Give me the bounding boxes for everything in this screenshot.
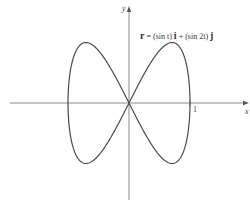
x-axis-label: x <box>244 107 249 116</box>
y-axis-arrow-icon <box>127 6 131 12</box>
equation-part1: = (sin t) <box>144 32 173 41</box>
x-axis-arrow-icon <box>243 101 249 105</box>
y-axis-label: y <box>121 4 126 13</box>
equation-part2: + (sin 2t) <box>177 32 210 41</box>
x-tick-label: 1 <box>193 105 197 114</box>
equation-j: j <box>209 30 213 41</box>
equation-label: r = (sin t) i + (sin 2t) j <box>140 30 213 41</box>
parametric-curve-figure: 1 x y r = (sin t) i + (sin 2t) j <box>0 0 250 200</box>
